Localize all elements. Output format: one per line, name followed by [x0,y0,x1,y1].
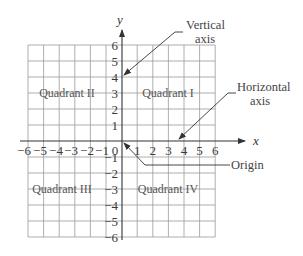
svg-text:−1: −1 [104,150,118,165]
svg-text:−6: −6 [17,143,31,158]
svg-text:6: 6 [212,143,219,158]
horizontal-axis-callout-line1: Horizontal [237,80,291,94]
svg-text:4: 4 [112,70,119,85]
svg-text:−2: −2 [104,166,118,181]
svg-text:−3: −3 [104,182,118,197]
x-tick-labels: −6 −5 −4 −3 −2 −1 0 1 2 3 4 5 6 [17,143,219,158]
svg-text:−5: −5 [104,214,118,229]
svg-text:3: 3 [112,86,119,101]
svg-text:2: 2 [150,143,157,158]
quadrant-i-label: Quadrant I [142,86,194,100]
vertical-axis-callout-line1: Vertical [186,18,225,32]
y-axis-label: y [115,12,123,27]
svg-text:−4: −4 [49,143,63,158]
svg-text:−2: −2 [80,143,94,158]
x-axis-label: x [252,133,259,148]
svg-text:−5: −5 [33,143,47,158]
svg-text:−4: −4 [104,198,118,213]
svg-text:1: 1 [112,118,119,133]
quadrant-iv-label: Quadrant IV [138,182,199,196]
svg-text:1: 1 [134,143,141,158]
origin-callout: Origin [231,158,264,172]
quadrant-ii-label: Quadrant II [39,86,95,100]
vertical-axis-callout-line2: axis [195,32,215,46]
svg-text:−3: −3 [64,143,78,158]
coordinate-plane-diagram: x y −6 −5 −4 −3 −2 −1 0 1 2 3 4 5 6 6 5 … [0,0,303,256]
svg-text:5: 5 [112,54,119,69]
vertical-axis-leader-arrow [124,32,183,75]
svg-text:3: 3 [165,143,172,158]
svg-text:−6: −6 [104,230,118,245]
horizontal-axis-callout-line2: axis [250,94,270,108]
svg-text:2: 2 [112,102,119,117]
svg-text:6: 6 [112,38,119,53]
svg-text:5: 5 [196,143,203,158]
quadrant-iii-label: Quadrant III [32,182,92,196]
svg-text:4: 4 [181,143,188,158]
